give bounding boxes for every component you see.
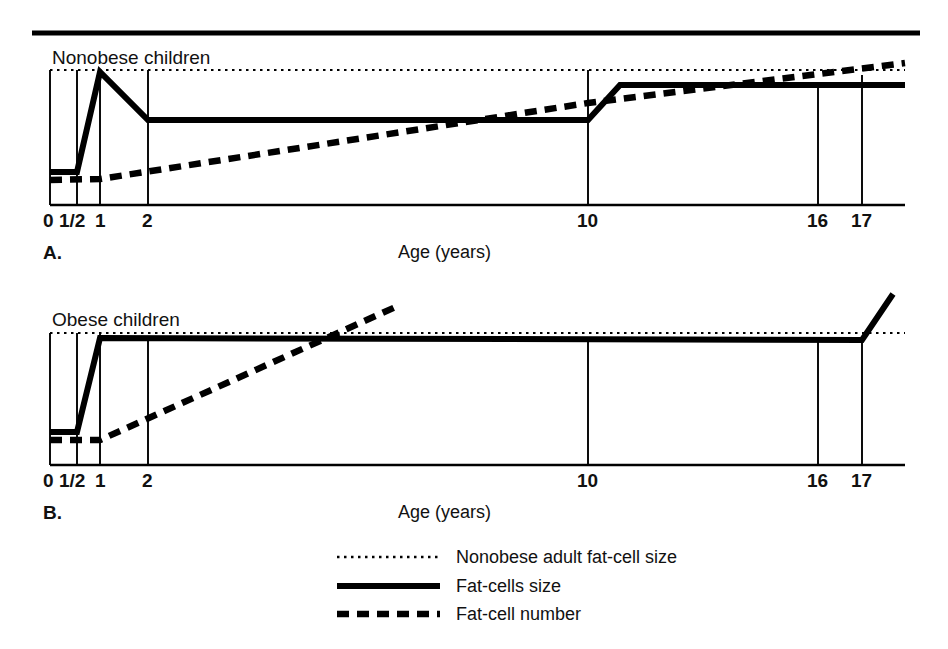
panel-a-series-fat-cell-size — [50, 72, 905, 172]
legend-label-fat-cell-number: Fat-cell number — [456, 605, 581, 623]
legend-label-fat-cells-size: Fat-cells size — [456, 577, 561, 595]
panel-a-tick-1: 1 — [95, 211, 106, 230]
panel-b-axis-title: Age (years) — [398, 503, 491, 521]
panel-a-tick-half: 1/2 — [59, 211, 85, 230]
panel-b-tick-half: 1/2 — [59, 471, 85, 490]
panel-b-letter: B. — [43, 503, 62, 522]
figure-root: Nonobese children 0 1/2 1 2 10 16 17 A. … — [0, 0, 948, 649]
panel-a-tick-0: 0 — [43, 211, 54, 230]
panel-b-tick-10: 10 — [577, 471, 598, 490]
panel-b-tick-0: 0 — [43, 471, 54, 490]
panel-b-title: Obese children — [52, 310, 180, 329]
panel-a-tick-10: 10 — [577, 211, 598, 230]
panel-a-tick-2: 2 — [142, 211, 153, 230]
panel-b-tick-16: 16 — [807, 471, 828, 490]
panel-a-axis-title: Age (years) — [398, 243, 491, 261]
panel-a-chart — [50, 63, 905, 205]
panel-b-gridlines — [50, 333, 862, 465]
legend-label-nonobese-adult-fat-cell-size: Nonobese adult fat-cell size — [456, 548, 677, 566]
panel-b-tick-1: 1 — [95, 471, 106, 490]
legend-keys — [337, 557, 440, 614]
panel-a-tick-16: 16 — [807, 211, 828, 230]
panel-a-title: Nonobese children — [52, 48, 210, 67]
panel-b-tick-17: 17 — [851, 471, 872, 490]
panel-b-tick-2: 2 — [142, 471, 153, 490]
panel-a-gridlines — [50, 70, 862, 205]
panel-a-letter: A. — [43, 243, 62, 262]
panel-a-tick-17: 17 — [851, 211, 872, 230]
